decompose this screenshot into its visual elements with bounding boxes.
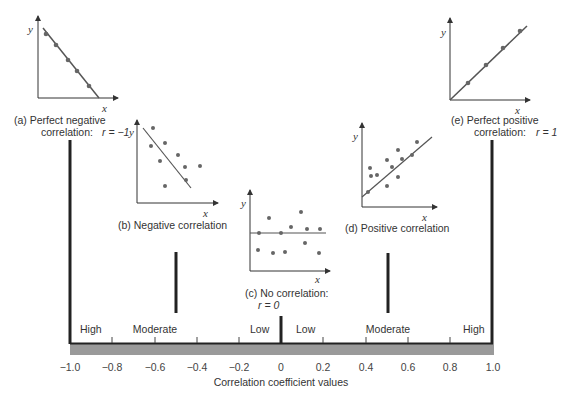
correlation-diagram: y x (a) Perfect negative correlation: r …	[0, 0, 561, 403]
svg-text:0.2: 0.2	[316, 361, 331, 373]
svg-text:−0.6: −0.6	[145, 361, 166, 373]
panel-c-caption: (c) No correlation:	[245, 287, 328, 299]
svg-text:−0.2: −0.2	[229, 361, 250, 373]
svg-text:0.4: 0.4	[359, 361, 374, 373]
panel-d-caption: (d) Positive correlation	[345, 222, 450, 234]
svg-text:0.6: 0.6	[401, 361, 416, 373]
svg-text:0.8: 0.8	[443, 361, 458, 373]
panel-a-perfect-negative: y x (a) Perfect negative correlation: r …	[14, 16, 129, 138]
scale-bar	[70, 344, 494, 355]
svg-text:1.0: 1.0	[486, 361, 501, 373]
panel-e-y-label: y	[440, 26, 446, 38]
svg-text:−0.4: −0.4	[187, 361, 208, 373]
panel-b-negative: y x (b) Negative correlation	[118, 120, 227, 231]
panel-b-x-label: x	[202, 207, 208, 219]
scale-tick-labels: −1.0 −0.8 −0.6 −0.4 −0.2 0 0.2 0.4 0.6 0…	[60, 361, 501, 373]
strength-label-high-neg: High	[80, 323, 102, 335]
connector-lines	[70, 140, 492, 344]
strength-label-low-pos: Low	[296, 323, 316, 335]
panel-b-y-label: y	[128, 126, 134, 138]
panel-c-r-value: r = 0	[258, 299, 279, 311]
panel-a-caption: (a) Perfect negative	[14, 114, 106, 126]
strength-label-low-neg: Low	[250, 323, 270, 335]
panel-e-caption-2: correlation:	[474, 126, 526, 138]
panel-e-caption: (e) Perfect positive	[451, 114, 539, 126]
strength-label-moderate-pos: Moderate	[366, 323, 411, 335]
panel-d-points	[366, 140, 419, 194]
panel-c-none: y x (c) No correlation: r = 0	[240, 190, 330, 311]
scale-axis-title: Correlation coefficient values	[214, 376, 349, 388]
panel-c-y-label: y	[240, 197, 246, 209]
svg-text:−1.0: −1.0	[60, 361, 81, 373]
panel-b-points	[149, 126, 202, 188]
panel-a-caption-2: correlation:	[41, 126, 93, 138]
panel-e-r-value: r = 1	[536, 126, 557, 138]
panel-e-perfect-positive: y x (e) Perfect positive correlation: r …	[440, 18, 557, 138]
panel-a-y-label: y	[27, 23, 33, 35]
strength-label-high-pos: High	[463, 323, 485, 335]
panel-d-y-label: y	[352, 130, 358, 142]
panel-b-caption: (b) Negative correlation	[118, 219, 227, 231]
panel-d-positive: y x (d) Positive correlation	[345, 123, 450, 234]
svg-text:0: 0	[278, 361, 284, 373]
panel-c-x-label: x	[314, 273, 320, 285]
svg-text:−0.8: −0.8	[102, 361, 123, 373]
panel-a-r-value: r = −1	[102, 126, 129, 138]
panel-a-x-label: x	[101, 102, 107, 114]
strength-label-moderate-neg: Moderate	[133, 323, 178, 335]
